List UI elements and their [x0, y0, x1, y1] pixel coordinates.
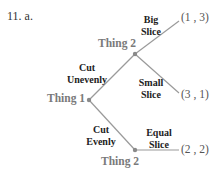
- node-dot-thing1: [87, 98, 91, 102]
- node-dot-thing2-top: [133, 52, 137, 56]
- payoff-equal-slice: (2 , 2): [181, 143, 209, 155]
- edge-label-cut-evenly: Cut Evenly: [84, 124, 118, 148]
- edge-label-cut-unevenly: Cut Unevenly: [66, 62, 108, 86]
- payoff-big-slice: (1 , 3): [181, 11, 209, 23]
- payoff-small-slice: (3 , 1): [181, 88, 209, 100]
- node-label-thing2-top: Thing 2: [98, 37, 136, 49]
- node-label-thing2-bottom: Thing 2: [101, 155, 139, 167]
- node-dot-thing2-bottom: [133, 148, 137, 152]
- edge-label-small-slice: Small Slice: [137, 77, 165, 101]
- node-label-thing1: Thing 1: [47, 92, 85, 104]
- edge-label-equal-slice: Equal Slice: [145, 127, 173, 151]
- edge-label-big-slice: Big Slice: [139, 14, 163, 38]
